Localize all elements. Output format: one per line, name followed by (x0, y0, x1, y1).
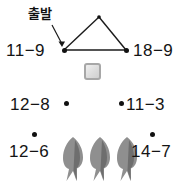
expression-11-minus-9: 11−9 (6, 42, 45, 59)
node-dot-12-6[interactable] (32, 132, 37, 137)
expression-18-minus-9: 18−9 (133, 42, 173, 59)
expression-12-minus-6: 12−6 (9, 143, 49, 160)
grey-tree-icon (90, 137, 110, 181)
start-pointer-arrow (52, 25, 65, 47)
node-dot-11-9[interactable] (62, 48, 67, 53)
start-pointer-shaft (52, 25, 62, 44)
grey-tree-icon (63, 137, 83, 181)
node-dot-18-9[interactable] (124, 48, 129, 53)
grey-square-icon[interactable] (84, 63, 101, 80)
node-dot-11-3[interactable] (119, 101, 124, 106)
expression-11-minus-3: 11−3 (126, 96, 165, 113)
edge-left-to-apex (64, 17, 99, 50)
start-pointer-head (59, 42, 66, 48)
triangle-vertex-dots (97, 15, 101, 19)
start-label: 출발 (28, 7, 51, 20)
expression-14-minus-7: 14−7 (131, 143, 171, 160)
node-dot-12-8[interactable] (64, 101, 69, 106)
expression-12-minus-8: 12−8 (10, 96, 50, 113)
vertex-dot-apex (97, 15, 101, 19)
node-dot-14-7[interactable] (150, 132, 155, 137)
edge-apex-to-right (99, 17, 126, 50)
tree-icon-group (63, 137, 137, 181)
triangle-route-edges (64, 17, 126, 50)
